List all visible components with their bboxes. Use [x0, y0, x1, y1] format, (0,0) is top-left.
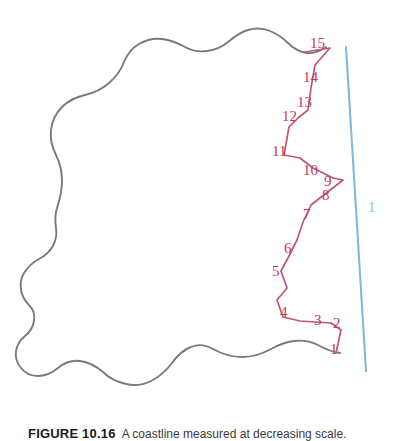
vertex-label-14: 14: [303, 70, 318, 85]
coastline-outline-path: [16, 29, 340, 385]
figure-caption: FIGURE 10.16A coastline measured at decr…: [28, 426, 388, 441]
vertex-label-3: 3: [314, 313, 322, 328]
vertex-label-4: 4: [280, 305, 288, 320]
figure-caption-number: FIGURE 10.16: [28, 426, 116, 441]
vertex-label-10: 10: [303, 163, 318, 178]
straight-line-chord: [346, 47, 366, 371]
vertex-label-12: 12: [282, 109, 297, 124]
vertex-label-13: 13: [297, 95, 312, 110]
vertex-label-6: 6: [284, 241, 292, 256]
vertex-label-5: 5: [272, 264, 280, 279]
figure-container: 123456789101112131415 1 FIGURE 10.16A co…: [0, 0, 398, 441]
vertex-label-1: 1: [330, 342, 338, 357]
vertex-label-8: 8: [322, 188, 330, 203]
vertex-label-15: 15: [310, 36, 325, 51]
vertex-label-7: 7: [303, 207, 311, 222]
vertex-label-11: 11: [272, 144, 286, 159]
figure-drawing: [0, 0, 398, 441]
figure-caption-text: A coastline measured at decreasing scale…: [116, 427, 347, 441]
vertex-label-9: 9: [324, 174, 332, 189]
vertex-label-2: 2: [333, 316, 341, 331]
straight-line-label: 1: [368, 200, 376, 215]
